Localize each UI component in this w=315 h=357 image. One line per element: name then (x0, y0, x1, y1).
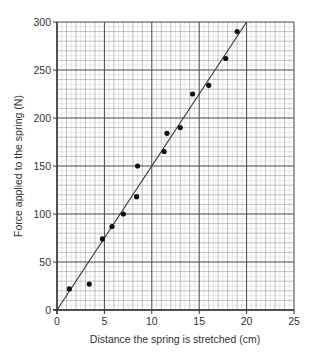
data-point (109, 224, 114, 229)
y-tick-label: 0 (45, 304, 51, 316)
y-tick-label: 100 (33, 208, 51, 220)
data-point (100, 236, 105, 241)
y-tick-label: 200 (33, 112, 51, 124)
scatter-chart: 0510152025 050100150200250300 Distance t… (0, 0, 315, 357)
data-point (87, 281, 92, 286)
y-axis-label: Force applied to the spring (N) (12, 95, 24, 237)
x-axis-ticks: 0510152025 (54, 310, 300, 327)
data-point (178, 125, 183, 130)
data-point (134, 194, 139, 199)
x-tick-label: 20 (241, 315, 253, 327)
major-grid (53, 22, 294, 314)
data-point (135, 163, 140, 168)
x-tick-label: 10 (146, 315, 158, 327)
x-tick-label: 5 (101, 315, 107, 327)
x-axis-label: Distance the spring is stretched (cm) (90, 333, 260, 345)
data-point (235, 29, 240, 34)
y-tick-label: 300 (33, 16, 51, 28)
data-point (223, 56, 228, 61)
y-axis-ticks: 050100150200250300 (33, 16, 57, 316)
x-tick-label: 25 (288, 315, 300, 327)
data-point (162, 149, 167, 154)
data-point (164, 131, 169, 136)
x-tick-label: 0 (54, 315, 60, 327)
data-point (121, 211, 126, 216)
y-tick-label: 50 (39, 256, 51, 268)
data-point (190, 91, 195, 96)
data-point (67, 286, 72, 291)
y-tick-label: 250 (33, 64, 51, 76)
data-point (206, 83, 211, 88)
y-tick-label: 150 (33, 160, 51, 172)
x-tick-label: 15 (193, 315, 205, 327)
